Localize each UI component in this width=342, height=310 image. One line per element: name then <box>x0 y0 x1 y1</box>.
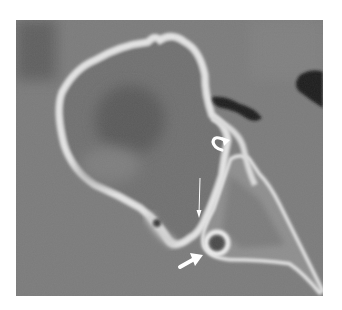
ct-scan-image <box>16 20 323 296</box>
ct-image-frame <box>16 20 323 296</box>
